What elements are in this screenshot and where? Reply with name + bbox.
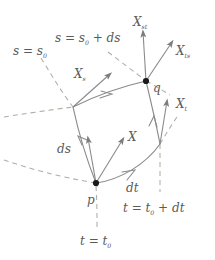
edge-left-vertex-to-q [73, 81, 146, 107]
label-X-ts-main: X [175, 44, 185, 58]
curve-s-equals-s0 [41, 58, 73, 107]
label-X: X [127, 130, 137, 144]
label-X-ts-sub: ts [185, 52, 191, 59]
label-q: q [153, 81, 161, 95]
label-X-st-main: X [132, 15, 142, 29]
label-t0-sub: 0 [107, 242, 111, 249]
label-s-equals-s0: s = s0 [13, 44, 47, 59]
vector-arrow-X-ts [146, 42, 172, 81]
label-X-s: Xs [73, 67, 86, 82]
label-dt: dt [126, 181, 139, 195]
label-X-s-sub: s [83, 75, 86, 82]
curve-s-equals-s0-plus-ds [108, 52, 146, 81]
label-ds: ds [57, 142, 71, 156]
vector-arrow-X-st [143, 32, 146, 81]
label-X-st-sub: st [142, 23, 148, 30]
vector-arrow-ds [88, 138, 96, 183]
edge-left-vertex-to-p [73, 107, 96, 183]
figure-canvas: s = s0 s = s0 + ds Xst Xts Xs q Xt X ds … [0, 0, 215, 260]
label-X-t-main: X [175, 97, 185, 111]
label-t-equals-t0-plus-dt: t = t0 + dt [123, 201, 185, 216]
label-X-t: Xt [175, 97, 188, 112]
vector-arrow-X-t [160, 101, 167, 144]
edge-p-to-right-vertex [96, 144, 160, 183]
label-t-equals-t0: t = t0 [80, 234, 111, 249]
label-t0-main: t = t [80, 234, 108, 248]
label-s-equals-s0-sub: 0 [43, 52, 47, 59]
arrowhead-bottom-edge [122, 170, 135, 180]
label-t0dt-main: t = t [123, 201, 151, 215]
label-X-t-sub: t [185, 105, 188, 112]
point-p [93, 180, 99, 186]
label-X-st: Xst [132, 15, 148, 30]
label-X-s-main: X [73, 67, 83, 81]
curve-t-equals-t0-left [4, 160, 96, 183]
label-s-equals-s0-plus-ds: s = s0 + ds [55, 31, 120, 46]
label-X-ts: Xts [175, 44, 190, 59]
label-s0ds-main: s = s [55, 31, 85, 45]
curve-t-through-left-vertex [4, 107, 73, 117]
label-s-equals-s0-main: s = s [13, 44, 43, 58]
diagram-svg: s = s0 s = s0 + ds Xst Xts Xs q Xt X ds … [0, 0, 215, 260]
label-t0dt-tail: + dt [154, 201, 184, 215]
quadrilateral-edges [73, 81, 160, 183]
label-p: p [87, 193, 95, 207]
label-s0ds-tail: + ds [89, 31, 121, 45]
curve-t-equals-t0-down [96, 186, 97, 228]
point-q [143, 78, 149, 84]
